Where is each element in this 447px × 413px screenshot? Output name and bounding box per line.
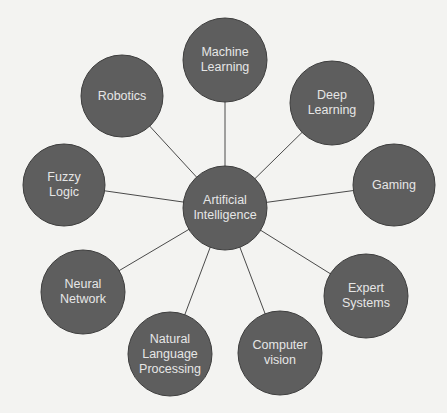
node-label-neural-network: Neural Network — [41, 250, 125, 334]
node-label-expert-systems: Expert Systems — [324, 254, 408, 338]
node-label-natural-language-processing: Natural Language Processing — [128, 312, 212, 396]
node-label-robotics: Robotics — [81, 55, 163, 137]
node-label-deep-learning: Deep Learning — [290, 61, 374, 145]
node-label-fuzzy-logic: Fuzzy Logic — [23, 144, 105, 226]
node-label-machine-learning: Machine Learning — [183, 18, 267, 102]
node-label-ai: Artificial Intelligence — [183, 166, 267, 250]
node-label-gaming: Gaming — [353, 144, 435, 226]
node-label-computer-vision: Computer vision — [238, 311, 322, 395]
